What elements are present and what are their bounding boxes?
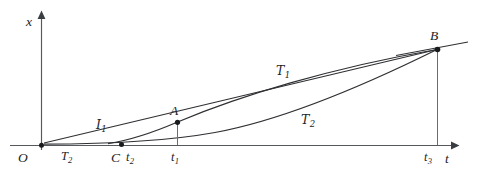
tick-label-t2-base: t <box>126 150 129 164</box>
t-axis-arrowhead <box>451 142 460 150</box>
curve-label-t2-origin-base: T <box>61 149 68 163</box>
point-c-dot <box>119 142 124 147</box>
curve-label-t2-sub: 2 <box>310 119 316 129</box>
point-a-dot <box>175 120 180 125</box>
curve-label-t1-sub: 1 <box>285 70 291 80</box>
curve-label-t2: T2 <box>301 114 315 127</box>
axis-label-t: t <box>445 152 449 166</box>
curve-label-t1-base: T <box>276 63 284 78</box>
point-o-dot <box>39 143 44 148</box>
axis-label-x: x <box>26 15 32 29</box>
curve-label-t2-origin-sub: 2 <box>68 155 72 165</box>
tick-label-t2-sub: 2 <box>130 156 134 166</box>
point-label-o: O <box>18 151 28 165</box>
tick-label-t3: t3 <box>424 151 432 164</box>
tick-label-t1: t1 <box>171 151 179 164</box>
point-label-b: B <box>430 29 438 43</box>
x-axis-arrowhead <box>38 11 46 20</box>
curve-label-i1: I1 <box>96 119 107 132</box>
curve-label-i1-sub: 1 <box>101 124 107 134</box>
tangent-ray <box>396 42 468 56</box>
tick-label-t1-base: t <box>171 150 174 164</box>
curve-label-t1: T1 <box>276 65 290 78</box>
tick-label-t1-sub: 1 <box>175 156 179 166</box>
curve-label-t2-origin: T2 <box>61 150 72 163</box>
point-label-a: A <box>170 104 178 118</box>
tick-label-t3-base: t <box>424 150 427 164</box>
tick-label-t3-sub: 3 <box>428 156 432 166</box>
tick-label-t2: t2 <box>126 151 134 164</box>
curve-label-t2-base: T <box>301 112 309 127</box>
figure-canvas: x t O C A B t2 t1 t3 I1 T2 T1 T2 <box>0 0 480 178</box>
point-b-dot <box>435 47 441 53</box>
point-label-c: C <box>111 151 120 165</box>
upper-trajectory-curve <box>108 50 437 144</box>
